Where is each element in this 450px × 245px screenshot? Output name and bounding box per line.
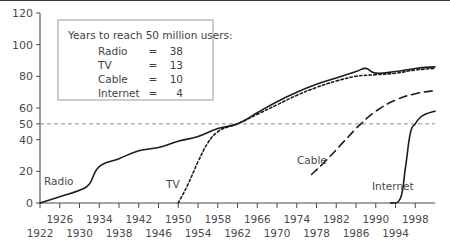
y-tick-label: 60	[19, 102, 33, 115]
adoption-curves-chart: 02040506080100120 1922192619301934193819…	[0, 0, 450, 245]
series-label-radio: Radio	[44, 175, 74, 187]
x-tick-label: 1922	[27, 227, 54, 239]
series-line-cable	[312, 91, 435, 175]
x-tick-label: 1942	[125, 213, 152, 225]
x-tick-label: 1954	[185, 227, 212, 239]
x-tick-label: 1934	[86, 213, 113, 225]
x-tick-label: 1990	[362, 213, 389, 225]
y-tick-label: 20	[19, 165, 33, 178]
x-tick-label: 1962	[224, 227, 251, 239]
y-tick-label: 120	[12, 7, 33, 20]
series-labels: RadioTVCableInternet	[44, 154, 414, 192]
y-tick-label: 40	[19, 134, 33, 147]
legend-equals: =	[149, 73, 158, 85]
y-axis: 02040506080100120	[12, 7, 40, 210]
y-tick-label: 50	[19, 118, 33, 131]
series-label-internet: Internet	[372, 180, 414, 192]
x-tick-label: 1974	[283, 213, 310, 225]
y-tick-label: 0	[26, 197, 33, 210]
legend-years-internet: 4	[176, 87, 183, 99]
x-tick-label: 1958	[204, 213, 231, 225]
x-tick-label: 1970	[264, 227, 291, 239]
x-tick-label: 1946	[145, 227, 172, 239]
legend-equals: =	[149, 87, 158, 99]
legend-equals: =	[149, 59, 158, 71]
x-tick-label: 1978	[303, 227, 330, 239]
legend-years-tv: 13	[170, 59, 183, 71]
x-axis: 1922192619301934193819421946195019541958…	[27, 203, 435, 239]
x-tick-label: 1966	[244, 213, 271, 225]
x-tick-label: 1938	[106, 227, 133, 239]
legend-medium-radio: Radio	[98, 45, 128, 57]
series-label-tv: TV	[165, 178, 180, 190]
x-tick-label: 1982	[323, 213, 350, 225]
legend-box: Years to reach 50 million users:Radio=38…	[58, 20, 233, 100]
y-tick-label: 80	[19, 70, 33, 83]
series-label-cable: Cable	[297, 154, 327, 166]
legend-medium-internet: Internet	[98, 87, 140, 99]
chart-canvas: 02040506080100120 1922192619301934193819…	[0, 0, 450, 245]
legend-equals: =	[149, 45, 158, 57]
y-tick-label: 100	[12, 39, 33, 52]
legend-years-cable: 10	[170, 73, 183, 85]
legend-medium-cable: Cable	[98, 73, 128, 85]
legend-title: Years to reach 50 million users:	[67, 29, 233, 41]
legend-medium-tv: TV	[97, 59, 112, 71]
x-tick-label: 1926	[46, 213, 73, 225]
legend-years-radio: 38	[170, 45, 183, 57]
x-tick-label: 1998	[402, 213, 429, 225]
x-tick-label: 1986	[343, 227, 370, 239]
x-tick-label: 1930	[66, 227, 93, 239]
x-tick-label: 1950	[165, 213, 192, 225]
x-tick-label: 1994	[382, 227, 409, 239]
